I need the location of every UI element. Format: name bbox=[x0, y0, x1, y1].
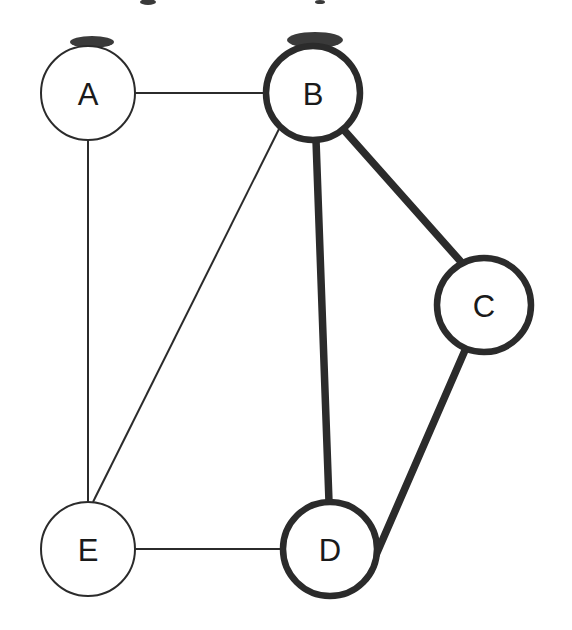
node-label-a: A bbox=[78, 77, 99, 112]
edge-layer bbox=[88, 93, 466, 578]
scan-artifact-layer bbox=[70, 0, 343, 48]
graph-edge-b-c bbox=[343, 129, 462, 263]
graph-node-a[interactable]: A bbox=[41, 46, 135, 140]
node-label-c: C bbox=[473, 289, 495, 324]
graph-node-d[interactable]: D bbox=[283, 502, 377, 596]
node-layer: ABCDE bbox=[41, 46, 531, 596]
graph-edge-b-d bbox=[316, 140, 329, 502]
scan-artifact bbox=[140, 0, 156, 5]
node-label-e: E bbox=[78, 533, 99, 568]
node-label-d: D bbox=[319, 533, 341, 568]
graph-node-c[interactable]: C bbox=[437, 258, 531, 352]
graph-edge-c-d bbox=[366, 348, 466, 578]
scan-artifact bbox=[315, 0, 325, 4]
graph-diagram-canvas: ABCDE bbox=[0, 0, 572, 630]
node-label-b: B bbox=[303, 77, 324, 112]
graph-node-e[interactable]: E bbox=[41, 502, 135, 596]
graph-node-b[interactable]: B bbox=[266, 46, 360, 140]
graph-edge-b-e bbox=[93, 127, 280, 502]
graph-svg: ABCDE bbox=[0, 0, 572, 630]
